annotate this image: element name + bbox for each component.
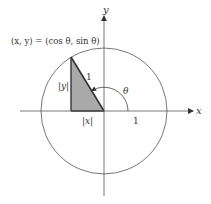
unit-circle-diagram: y x (x, y) = (cos θ, sin θ) 1 |y| |x| θ … xyxy=(0,0,211,204)
vertical-leg-label: |y| xyxy=(58,81,69,92)
diagram-canvas: y x (x, y) = (cos θ, sin θ) 1 |y| |x| θ … xyxy=(0,0,211,204)
x-axis-unit-label: 1 xyxy=(133,116,139,126)
horizontal-leg-label: |x| xyxy=(82,116,93,127)
y-axis-label: y xyxy=(102,4,109,15)
point-label: (x, y) = (cos θ, sin θ) xyxy=(11,36,100,46)
angle-label: θ xyxy=(123,86,129,96)
hypotenuse-label: 1 xyxy=(86,72,92,82)
x-axis-label: x xyxy=(196,105,202,116)
